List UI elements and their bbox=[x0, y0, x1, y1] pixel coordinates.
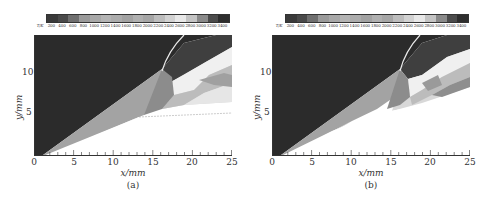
contour-plot-a bbox=[34, 35, 232, 155]
y-tick-10: 10 bbox=[260, 67, 271, 77]
colorbar-a-labels: T/K 200 400 600 800 1000 1200 1400 1600 … bbox=[34, 23, 230, 29]
x-tick-20: 20 bbox=[186, 157, 197, 167]
x-tick-10: 10 bbox=[107, 157, 118, 167]
x-tick-25: 25 bbox=[226, 157, 237, 167]
x-tick-10: 10 bbox=[345, 157, 356, 167]
colorbar-unit: T/K bbox=[273, 23, 285, 29]
panel-caption-a: (a) bbox=[127, 180, 139, 190]
x-tick-20: 20 bbox=[424, 157, 435, 167]
y-axis-label: y/mm bbox=[14, 95, 24, 120]
panel-b: T/K 200 400 600 800 1000 1200 1400 1600 … bbox=[240, 0, 483, 200]
y-tick-10: 10 bbox=[22, 67, 33, 77]
contour-plot-b bbox=[272, 35, 470, 155]
panel-a: T/K 200 400 600 800 1000 1200 1400 1600 … bbox=[0, 0, 240, 200]
colorbar-b bbox=[285, 14, 469, 23]
y-axis-label: y/mm bbox=[252, 95, 262, 120]
colorbar-a bbox=[46, 14, 230, 23]
x-tick-15: 15 bbox=[385, 157, 396, 167]
colorbar-unit: T/K bbox=[34, 23, 46, 29]
y-tick-5: 5 bbox=[264, 107, 270, 117]
x-axis-label: x/mm bbox=[358, 168, 383, 178]
x-axis-label: x/mm bbox=[120, 168, 145, 178]
x-tick-5: 5 bbox=[71, 157, 77, 167]
x-tick-15: 15 bbox=[147, 157, 158, 167]
x-tick-5: 5 bbox=[309, 157, 315, 167]
x-tick-25: 25 bbox=[464, 157, 475, 167]
x-tick-0: 0 bbox=[31, 157, 37, 167]
colorbar-b-labels: T/K 200 400 600 800 1000 1200 1400 1600 … bbox=[273, 23, 469, 29]
x-tick-0: 0 bbox=[269, 157, 275, 167]
y-tick-5: 5 bbox=[26, 107, 32, 117]
panel-caption-b: (b) bbox=[365, 180, 378, 190]
